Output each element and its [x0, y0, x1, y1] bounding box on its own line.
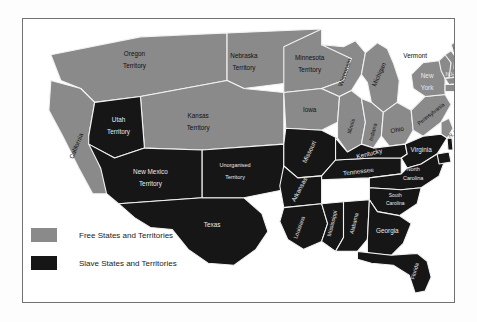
map-legend: Free States and Territories Slave States…: [31, 225, 177, 281]
legend-item-slave: Slave States and Territories: [31, 253, 177, 273]
region-unorganised-territory: [202, 144, 284, 198]
label-utah-territory-line1: Utah: [112, 116, 126, 123]
label-vermont: Vermont: [403, 52, 427, 59]
label-kansas-territory-line2: Territory: [187, 124, 211, 132]
label-utah-territory-line2: Territory: [107, 128, 131, 136]
label-unorganised-territory-line2: Territory: [225, 174, 245, 180]
label-new-york-line1: New: [421, 72, 434, 79]
label-nebraska-territory-line2: Territory: [232, 64, 256, 72]
region-delaware: [447, 138, 453, 150]
label-minnesota-territory-line1: Minnesota: [295, 54, 325, 61]
label-kansas-territory-line1: Kansas: [188, 112, 209, 119]
label-new-hampshire: N.H.: [446, 71, 454, 77]
legend-label-free: Free States and Territories: [79, 231, 173, 240]
label-new-york-line2: York: [421, 84, 434, 91]
region-florida: [357, 251, 431, 293]
legend-item-free: Free States and Territories: [31, 225, 177, 245]
region-maryland: [437, 152, 451, 164]
slave-swatch: [31, 256, 57, 270]
region-louisiana: [280, 204, 328, 250]
label-new-mexico-territory-line2: Territory: [139, 180, 163, 188]
label-oregon-territory-line1: Oregon: [124, 50, 146, 58]
label-minnesota-territory-line2: Territory: [298, 66, 322, 74]
legend-label-slave: Slave States and Territories: [79, 259, 177, 268]
free-swatch: [31, 228, 57, 242]
label-iowa: Iowa: [303, 106, 317, 113]
label-north-carolina-line1: North: [407, 166, 420, 172]
label-maine: Maine: [453, 46, 454, 53]
label-virginia: Virginia: [411, 146, 433, 154]
region-connecticut: [445, 85, 454, 92]
label-nebraska-territory-line1: Nebraska: [230, 52, 258, 59]
label-oregon-territory-line2: Territory: [123, 62, 147, 70]
label-texas: Texas: [204, 221, 221, 228]
map-figure: Oregon Territory California Utah Territo…: [22, 18, 455, 303]
label-south-carolina-line2: Carolina: [386, 201, 405, 206]
label-new-mexico-territory-line1: New Mexico: [133, 168, 168, 175]
label-south-carolina-line1: South: [389, 193, 402, 198]
label-north-carolina-line2: Carolina: [403, 175, 424, 181]
label-unorganised-territory-line1: Unorganised: [220, 162, 251, 168]
label-georgia: Georgia: [376, 227, 399, 235]
